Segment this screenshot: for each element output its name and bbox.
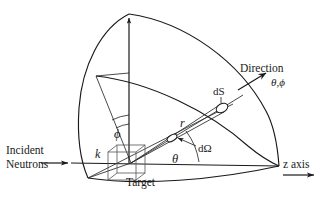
edge-origin-to-bottom-left-vertex (88, 163, 131, 178)
spherical-sector (78, 14, 279, 182)
solid-angle-ellipse (166, 133, 178, 144)
scattering-geometry-figure: Incident Neutrons k Target θ ϕ r dΩ dS D… (0, 0, 325, 200)
solid-angle-label: dΩ (198, 142, 212, 154)
cube-edge-tl (108, 145, 117, 152)
back-diagonal-line (88, 104, 233, 178)
target-cube (108, 145, 145, 180)
area-element-label: dS (213, 85, 225, 97)
target-label: Target (126, 176, 156, 189)
z-axis-label: z axis (283, 158, 310, 170)
sector-edge-lines (88, 73, 131, 178)
cube-back-face (117, 145, 145, 173)
domega-leader-line (178, 138, 196, 146)
back-diagonal (88, 104, 233, 178)
theta-label: θ (172, 152, 178, 166)
direction-arrow-shaft (238, 73, 266, 90)
sector-mid-latitude-arc (96, 76, 279, 166)
incident-neutrons-label-line1: Incident (6, 144, 44, 156)
radius-r-label: r (180, 116, 185, 130)
phi-arc-path (112, 115, 129, 120)
chord-left-rim-to-axis (96, 73, 129, 76)
phi-label: ϕ (114, 127, 121, 141)
cube-edge-bl (108, 173, 117, 180)
domega-ellipse (166, 133, 178, 144)
incident-neutrons-label-line2: Neutrons (6, 158, 49, 170)
direction-angles-label: θ,ϕ (271, 76, 285, 88)
wavevector-k-label: k (95, 147, 101, 161)
domega-leader (178, 138, 196, 146)
direction-arrow (238, 73, 266, 90)
direction-label: Direction (240, 62, 284, 74)
diagram-canvas: Incident Neutrons k Target θ ϕ r dΩ dS D… (0, 0, 325, 200)
